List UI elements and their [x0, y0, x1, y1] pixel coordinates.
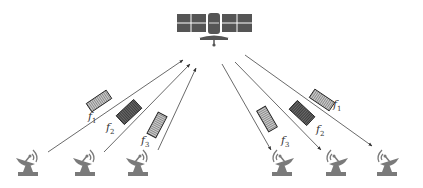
uplink-f1-line: [48, 60, 183, 152]
uplink-f2-label: f2: [105, 121, 115, 136]
ground-station-5-icon: [326, 150, 348, 176]
ground-stations: [16, 150, 399, 176]
downlink-group: f3 f2 f1: [222, 55, 372, 150]
downlink-f1-label: f1: [332, 98, 342, 113]
uplink-group: f1 f2 f3: [48, 60, 196, 152]
uplink-f3-line: [158, 68, 196, 150]
downlink-f1-band: [309, 89, 334, 111]
satellite-icon: [177, 13, 252, 47]
downlink-f2-label: f2: [315, 123, 325, 138]
uplink-f3-label: f3: [140, 134, 150, 149]
ground-station-4-icon: [272, 150, 294, 176]
uplink-f1-label: f1: [87, 110, 97, 125]
satellite-frequency-diagram: f1 f2 f3 f3 f2 f1: [0, 0, 423, 188]
ground-station-1-icon: [16, 150, 38, 176]
uplink-f3-band: [147, 112, 167, 138]
uplink-f1-band: [86, 90, 111, 112]
ground-station-2-icon: [73, 150, 95, 176]
ground-station-6-icon: [377, 150, 399, 176]
downlink-f1-line: [245, 55, 372, 146]
downlink-f3-label: f3: [280, 134, 290, 149]
downlink-f3-band: [257, 106, 278, 132]
ground-station-3-icon: [126, 150, 148, 176]
downlink-f2-line: [235, 62, 321, 150]
